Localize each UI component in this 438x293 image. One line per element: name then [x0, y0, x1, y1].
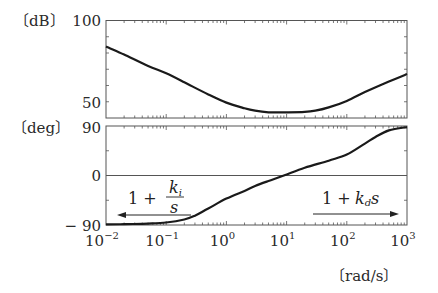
x-tick-label: 10−1: [145, 230, 179, 250]
x-axis-tick-labels: 10−210−1100101102103: [85, 230, 416, 250]
right-arrow-head-icon: [390, 211, 399, 217]
x-tick-label: 103: [390, 230, 415, 250]
phase-unit-label: 〔deg〕: [12, 119, 70, 137]
integral-numerator: ki: [169, 178, 182, 198]
magnitude-panel: 〔dB〕 100 50: [14, 12, 407, 118]
derivative-term: kds: [355, 189, 379, 208]
integral-one-plus: 1 +: [128, 189, 157, 208]
phase-tick-90: 90: [82, 119, 101, 137]
magnitude-frame: [106, 21, 407, 119]
phase-panel: 〔deg〕 90 0 − 90 1 + ki s 1 + kds: [12, 119, 407, 235]
magnitude-ticks: [106, 21, 407, 119]
x-tick-label: 102: [330, 230, 355, 250]
left-arrow-head-icon: [117, 212, 126, 218]
bode-plot: 〔dB〕 100 50 〔deg〕 90 0 − 90 1 + ki s 1 +…: [0, 0, 438, 293]
x-tick-label: 10−2: [85, 230, 119, 250]
magnitude-tick-50: 50: [82, 94, 101, 112]
phase-tick-0: 0: [91, 167, 101, 185]
x-tick-label: 101: [270, 230, 295, 250]
magnitude-unit-label: 〔dB〕: [14, 12, 65, 30]
derivative-term-annotation: 1 + kds: [313, 189, 399, 217]
integral-term-annotation: 1 + ki s: [117, 178, 191, 218]
magnitude-curve: [106, 47, 407, 113]
derivative-one-plus: 1 +: [322, 189, 351, 208]
integral-denominator: s: [170, 198, 178, 217]
magnitude-tick-100: 100: [72, 12, 101, 30]
x-tick-label: 100: [210, 230, 235, 250]
x-axis-unit-label: 〔rad/s〕: [330, 267, 398, 285]
